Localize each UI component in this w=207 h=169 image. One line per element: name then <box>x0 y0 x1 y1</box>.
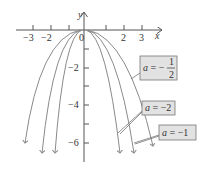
svg-text:a = −1: a = −1 <box>162 127 188 138</box>
parabola-family-chart: −3 −2 0 2 3 x y −2 −4 −6 a = − 1 2 <box>0 0 207 169</box>
x-tick-label-3: 3 <box>139 32 144 43</box>
svg-text:a = −2: a = −2 <box>145 102 171 113</box>
legend-a-neg-half: a = − 1 2 <box>140 56 177 80</box>
y-axis-label: y <box>77 9 83 20</box>
legend-a-neg-one: a = −1 <box>159 125 196 140</box>
x-tick-label-m3: −3 <box>23 32 34 43</box>
y-ticks <box>84 49 89 143</box>
legend-a-neg-two: a = −2 <box>142 101 175 115</box>
curve-a-neg-two <box>55 30 120 153</box>
svg-text:2: 2 <box>169 69 174 80</box>
curve-a-neg-one <box>42 30 134 153</box>
x-tick-label-m2: −2 <box>41 32 52 43</box>
curve-a-neg-half <box>25 30 153 146</box>
y-tick-label-m2: −2 <box>68 62 79 73</box>
svg-text:1: 1 <box>169 56 174 67</box>
y-tick-label-m4: −4 <box>68 99 79 110</box>
x-axis-label: x <box>154 30 160 41</box>
chart-canvas: −3 −2 0 2 3 x y −2 −4 −6 a = − 1 2 <box>0 0 207 169</box>
y-tick-label-m6: −6 <box>68 137 79 148</box>
x-tick-label-2: 2 <box>121 32 126 43</box>
x-ticks <box>33 25 142 30</box>
origin-label: 0 <box>79 32 84 43</box>
svg-text:a = −: a = − <box>143 62 165 73</box>
